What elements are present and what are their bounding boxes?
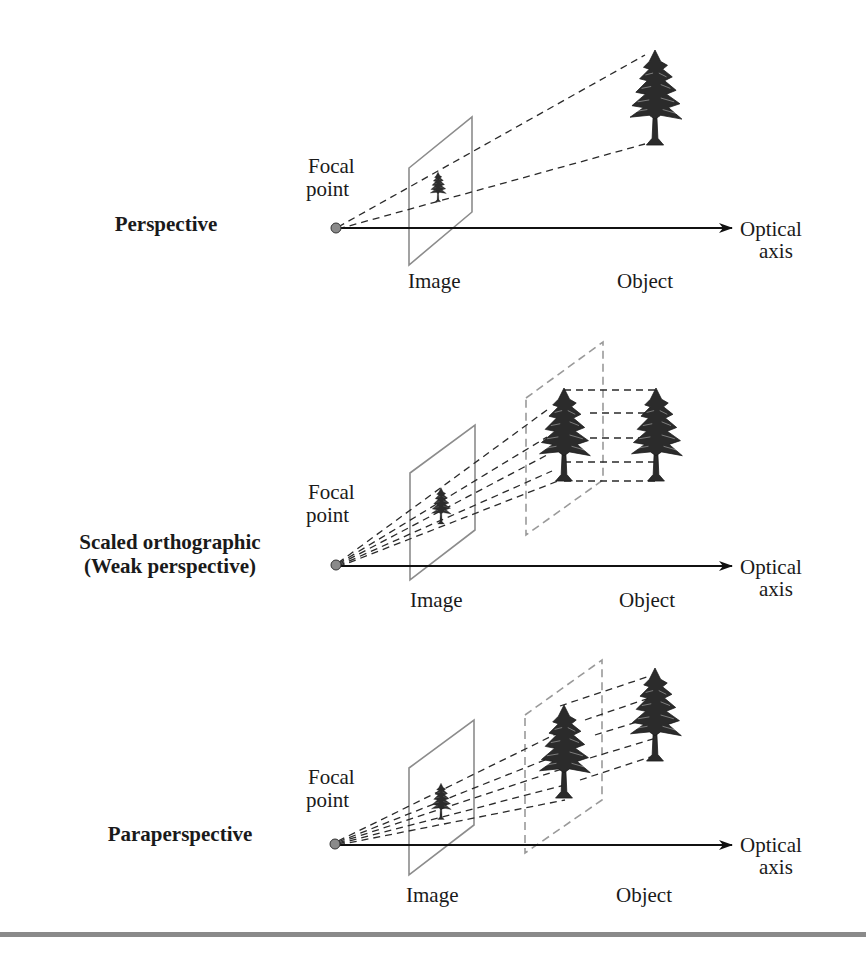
focal-point-label-line2: point [306,504,349,526]
optical-axis-label-line1: Optical [740,556,802,578]
optical-axis-label-line2: axis [759,240,793,262]
projection-models-diagram: Perspective Focal point Image Object Opt… [0,0,866,968]
object-tree-icon [631,668,682,761]
image-tree-icon [431,783,451,819]
panel-scaled-orthographic [331,342,732,580]
object-label: Object [617,270,673,292]
projected-tree-icon [540,388,591,481]
object-tree-icon [632,388,683,481]
panel-title-paraperspective: Paraperspective [100,822,260,846]
projection-rays [338,410,558,567]
optical-axis-label-line1: Optical [740,834,802,856]
object-tree-icon [630,50,682,145]
focal-point-label-line1: Focal [308,481,355,503]
focal-point-label-line1: Focal [308,766,355,788]
focal-point-dot [331,560,341,570]
focal-point-label-line1: Focal [308,155,355,177]
focal-point-label-line2: point [306,178,349,200]
projection-rays [338,732,565,845]
image-label: Image [406,884,458,906]
panel-perspective [331,50,732,265]
object-label: Object [616,884,672,906]
optical-axis-label-line2: axis [759,856,793,878]
focal-point-label-line2: point [306,789,349,811]
projected-tree-icon [540,705,591,798]
focal-point-dot [330,839,340,849]
image-label: Image [410,589,462,611]
focal-point-dot [331,223,341,233]
panel-paraperspective [330,660,732,875]
panel-title-scaled-orthographic: Scaled orthographic [50,530,290,554]
image-tree-icon [430,172,446,202]
panel-subtitle-weak-perspective: (Weak perspective) [50,554,290,578]
optical-axis-label-line2: axis [759,578,793,600]
object-label: Object [619,589,675,611]
image-label: Image [408,270,460,292]
bottom-rule-divider [0,932,866,937]
projection-rays [338,55,645,229]
panel-title-perspective: Perspective [100,212,232,236]
optical-axis-label-line1: Optical [740,218,802,240]
